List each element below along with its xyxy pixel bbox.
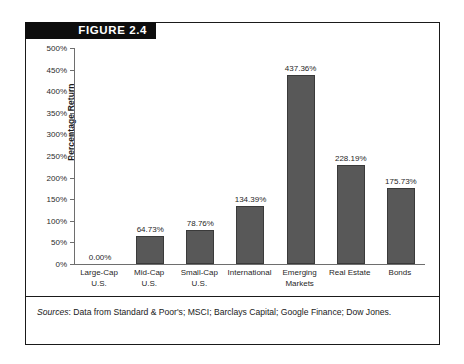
source-note: Sources: Data from Standard & Poor's; MS…: [37, 306, 429, 319]
bar-chart: Percentage Return 0%50%100%150%200%250%3…: [25, 39, 440, 295]
figure-banner-label: FIGURE 2.4: [78, 25, 147, 37]
x-tick-label-line: U.S.: [170, 279, 228, 290]
y-tick-label: 50%: [51, 238, 67, 247]
y-tick-label: 100%: [47, 216, 67, 225]
bar-slot: 175.73%: [376, 48, 426, 264]
y-tick-label: 450%: [47, 65, 67, 74]
y-tick-label: 300%: [47, 130, 67, 139]
bar-value-label: 175.73%: [385, 177, 417, 186]
bar: [387, 188, 415, 264]
bar-slot: 64.73%: [125, 48, 175, 264]
bar: [287, 75, 315, 264]
bar-value-label: 134.39%: [235, 195, 267, 204]
bar: [236, 206, 264, 264]
y-tick-label: 350%: [47, 108, 67, 117]
x-tick-label: Bonds: [371, 268, 429, 279]
y-tick-label: 250%: [47, 152, 67, 161]
y-tick-label: 400%: [47, 87, 67, 96]
figure-banner: FIGURE 2.4: [25, 22, 156, 39]
bar-value-label: 78.76%: [187, 219, 214, 228]
y-tick-label: 200%: [47, 173, 67, 182]
y-tick-label: 500%: [47, 44, 67, 53]
bar: [186, 230, 214, 264]
bar-slot: 134.39%: [225, 48, 275, 264]
x-tick-label-line: Markets: [271, 279, 329, 290]
source-label: Sources: [37, 307, 69, 317]
y-tick-label: 0%: [55, 260, 67, 269]
bar-value-label: 64.73%: [137, 225, 164, 234]
x-tick-label-line: Bonds: [371, 268, 429, 279]
bar-value-label: 437.36%: [285, 64, 317, 73]
bar-value-label: 0.00%: [89, 253, 112, 262]
bar-slot: 437.36%: [276, 48, 326, 264]
y-tick-label: 150%: [47, 195, 67, 204]
x-axis-line: [74, 264, 425, 265]
bar-slot: 78.76%: [175, 48, 225, 264]
bar-value-label: 228.19%: [335, 154, 367, 163]
bar: [337, 165, 365, 264]
plot-area: 0%50%100%150%200%250%300%350%400%450%500…: [74, 48, 426, 264]
source-divider: [25, 296, 440, 297]
source-text: Data from Standard & Poor's; MSCI; Barcl…: [73, 307, 391, 317]
bar: [136, 236, 164, 264]
bar-slot: 0.00%: [75, 48, 125, 264]
bar-slot: 228.19%: [326, 48, 376, 264]
